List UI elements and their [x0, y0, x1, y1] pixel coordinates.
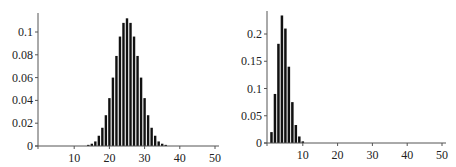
bar	[147, 115, 149, 146]
bar	[129, 23, 131, 146]
y-tick-label: 0.05	[241, 109, 262, 123]
charts-canvas: 102030405000.020.040.060.080.1 102030405…	[0, 0, 456, 167]
bar	[133, 37, 135, 146]
bar	[157, 141, 159, 146]
bar	[270, 132, 273, 143]
y-tick-label: 0.08	[12, 48, 33, 62]
bar	[112, 78, 114, 146]
y-tick-label: 0.15	[241, 54, 262, 68]
bar	[98, 136, 100, 146]
x-tick-label: 50	[209, 151, 221, 165]
bar	[284, 29, 287, 143]
bar	[119, 37, 121, 146]
bar	[150, 128, 152, 146]
bar	[298, 136, 301, 143]
x-tick-label: 30	[139, 151, 151, 165]
x-tick-label: 50	[436, 148, 448, 162]
y-tick-label: 0	[27, 139, 33, 153]
bar	[108, 98, 110, 146]
bar	[295, 125, 298, 143]
bar	[115, 56, 117, 146]
x-tick-label: 40	[174, 151, 186, 165]
y-tick-label: 0.04	[12, 93, 33, 107]
bar	[101, 128, 103, 146]
bar	[288, 67, 291, 143]
bar	[143, 98, 145, 146]
y-tick-label: 0.1	[247, 82, 262, 96]
y-tick-label: 0.02	[12, 116, 33, 130]
x-tick-label: 20	[103, 151, 115, 165]
y-tick-label: 0.1	[18, 25, 33, 39]
x-tick-label: 10	[68, 151, 80, 165]
bar	[105, 115, 107, 146]
bar	[126, 18, 128, 146]
x-tick-label: 20	[332, 148, 344, 162]
y-tick-label: 0.06	[12, 71, 33, 85]
y-tick-label: 0.2	[247, 27, 262, 41]
x-tick-label: 10	[297, 148, 309, 162]
bar	[140, 78, 142, 146]
x-tick-label: 40	[401, 148, 413, 162]
bar	[281, 15, 284, 143]
x-tick-label: 30	[366, 148, 378, 162]
right-bar-chart: 102030405000.050.10.150.2	[241, 11, 448, 162]
bar	[277, 44, 280, 143]
bar	[291, 102, 294, 143]
bar	[136, 56, 138, 146]
y-tick-label: 0	[256, 136, 262, 150]
left-bar-chart: 102030405000.020.040.060.080.1	[12, 13, 221, 165]
bar	[122, 23, 124, 146]
bar	[154, 136, 156, 146]
bar	[274, 94, 277, 143]
bar	[94, 141, 96, 146]
